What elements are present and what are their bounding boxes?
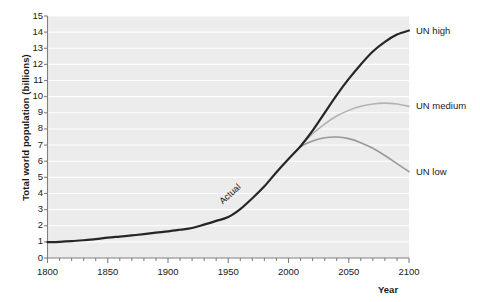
series-label-un-medium: UN medium (416, 100, 466, 111)
series-label-un-low: UN low (416, 166, 447, 177)
series-label-un-high: UN high (416, 25, 450, 36)
population-projection-chart: Total world population (billions) Year 0… (0, 0, 480, 302)
plot-area (0, 0, 480, 302)
